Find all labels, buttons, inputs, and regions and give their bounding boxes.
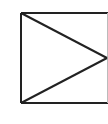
play-triangle-icon [0, 0, 108, 124]
triangle-upper-diagonal [21, 13, 107, 58]
diagram-figure [0, 0, 108, 124]
triangle-lower-diagonal [21, 58, 107, 103]
